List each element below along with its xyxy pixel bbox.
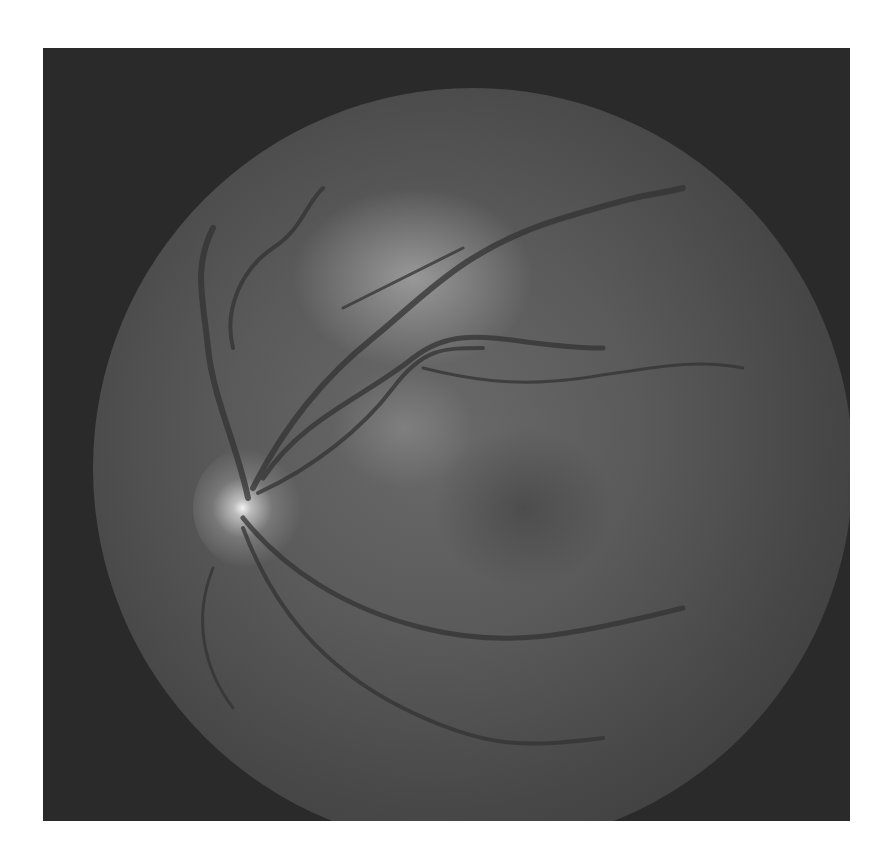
retinal-vessels — [43, 48, 850, 821]
image-frame — [43, 48, 850, 821]
